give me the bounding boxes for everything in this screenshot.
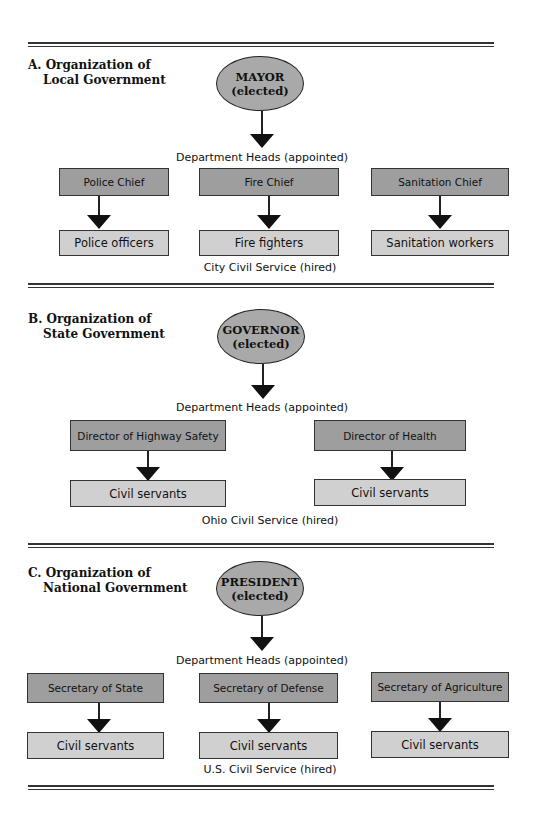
leader-note: (elected) (231, 84, 289, 98)
mayor-node: MAYOR (elected) (216, 56, 304, 111)
divider-rule (28, 283, 494, 288)
dept-head-box: Secretary of Defense (199, 673, 338, 703)
service-caption: Ohio Civil Service (hired) (170, 514, 370, 527)
dept-head-box: Director of Highway Safety (70, 420, 226, 451)
arrow-down-icon (136, 467, 160, 481)
connector-line (261, 616, 263, 638)
leader-label: MAYOR (236, 70, 285, 84)
arrow-down-icon (87, 215, 111, 229)
dept-head-box: Sanitation Chief (371, 168, 509, 196)
arrow-down-icon (251, 385, 275, 399)
leader-label: GOVERNOR (223, 323, 300, 337)
leader-label: PRESIDENT (221, 575, 299, 589)
dept-head-box: Secretary of Agriculture (371, 672, 509, 702)
divider-rule (28, 543, 494, 548)
arrow-down-icon (257, 215, 281, 229)
connector-line (268, 196, 270, 216)
arrow-down-icon (428, 215, 452, 229)
workers-box: Civil servants (27, 732, 164, 759)
arrow-down-icon (250, 637, 274, 651)
section-title-line2: State Government (28, 327, 165, 342)
governor-node: GOVERNOR (elected) (217, 309, 305, 364)
heads-caption: Department Heads (appointed) (160, 401, 364, 414)
connector-line (262, 364, 264, 386)
president-node: PRESIDENT (elected) (216, 561, 304, 616)
arrow-down-icon (257, 719, 281, 733)
connector-line (98, 196, 100, 216)
section-title-line1: C. Organization of (28, 566, 151, 580)
divider-rule (28, 42, 494, 47)
arrow-down-icon (87, 719, 111, 733)
service-caption: City Civil Service (hired) (180, 261, 360, 274)
heads-caption: Department Heads (appointed) (160, 151, 364, 164)
section-title-line2: National Government (28, 581, 188, 596)
section-title-line2: Local Government (28, 73, 166, 88)
section-title-line1: B. Organization of (28, 312, 152, 326)
workers-box: Civil servants (199, 732, 338, 759)
workers-box: Fire fighters (199, 230, 339, 256)
connector-line (439, 196, 441, 216)
leader-note: (elected) (231, 589, 289, 603)
divider-rule (28, 785, 494, 790)
workers-box: Civil servants (371, 731, 509, 758)
section-c-title: C. Organization of National Government (28, 566, 188, 596)
section-b-title: B. Organization of State Government (28, 312, 165, 342)
dept-head-box: Police Chief (59, 168, 169, 196)
dept-head-box: Director of Health (314, 420, 466, 451)
section-a-title: A. Organization of Local Government (28, 58, 166, 88)
connector-line (261, 111, 263, 135)
workers-box: Civil servants (314, 479, 466, 506)
dept-head-box: Secretary of State (27, 673, 164, 703)
workers-box: Sanitation workers (371, 230, 509, 256)
dept-head-box: Fire Chief (199, 168, 339, 196)
section-title-line1: A. Organization of (28, 58, 151, 72)
arrow-down-icon (250, 134, 274, 148)
leader-note: (elected) (232, 337, 290, 351)
service-caption: U.S. Civil Service (hired) (180, 763, 360, 776)
heads-caption: Department Heads (appointed) (160, 654, 364, 667)
workers-box: Civil servants (70, 480, 226, 507)
arrow-down-icon (428, 718, 452, 732)
workers-box: Police officers (59, 230, 169, 256)
